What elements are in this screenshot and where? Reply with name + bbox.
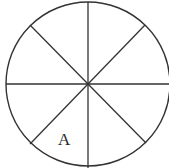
divided-circle-diagram: A (0, 0, 169, 168)
sector-label-a: A (58, 130, 71, 149)
